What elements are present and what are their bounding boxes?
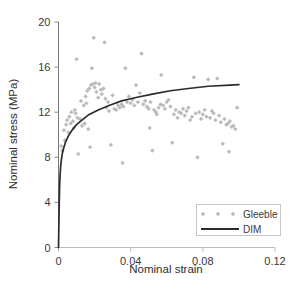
scatter-point bbox=[208, 116, 212, 120]
scatter-point bbox=[90, 66, 94, 70]
scatter-point bbox=[93, 85, 97, 89]
scatter-point bbox=[100, 92, 104, 96]
y-tick-label: 4 bbox=[44, 196, 50, 208]
scatter-point bbox=[197, 110, 201, 114]
scatter-point bbox=[185, 109, 189, 113]
scatter-point bbox=[221, 142, 225, 146]
scatter-point bbox=[127, 95, 131, 99]
y-tick-label: 12 bbox=[38, 106, 50, 118]
scatter-point bbox=[97, 82, 101, 86]
x-axis-ticks bbox=[59, 248, 276, 252]
scatter-point bbox=[187, 106, 191, 110]
y-tick-label: 20 bbox=[38, 16, 50, 28]
scatter-point bbox=[132, 104, 136, 108]
scatter-point bbox=[201, 113, 205, 117]
scatter-point bbox=[134, 83, 138, 87]
scatter-point bbox=[199, 117, 203, 121]
scatter-point bbox=[65, 118, 69, 122]
scatter-point bbox=[214, 118, 218, 122]
scatter-point bbox=[172, 113, 176, 117]
scatter-point bbox=[183, 114, 187, 118]
scatter-point bbox=[67, 115, 71, 119]
scatter-point bbox=[64, 123, 68, 127]
scatter-point bbox=[109, 143, 113, 147]
scatter-point bbox=[140, 52, 144, 56]
scatter-point bbox=[233, 127, 237, 131]
scatter-point bbox=[148, 126, 152, 130]
scatter-point bbox=[84, 95, 88, 99]
scatter-point bbox=[223, 117, 227, 121]
scatter-point bbox=[159, 73, 163, 77]
scatter-point bbox=[149, 100, 153, 104]
scatter-point bbox=[206, 78, 210, 82]
y-tick-label: 0 bbox=[44, 242, 50, 254]
scatter-point bbox=[59, 144, 63, 148]
scatter-point bbox=[227, 150, 231, 154]
scatter-point bbox=[219, 120, 223, 124]
scatter-point bbox=[141, 102, 145, 106]
scatter-point bbox=[136, 100, 140, 104]
x-tick-label: 0 bbox=[55, 255, 61, 267]
scatter-point bbox=[143, 99, 147, 103]
scatter-point bbox=[76, 152, 80, 156]
y-axis-title: Nominal stress (MPa) bbox=[7, 79, 19, 190]
scatter-chart: 048121620 00.040.080.12 Nominal strain N… bbox=[0, 0, 304, 303]
y-axis-tick-labels: 048121620 bbox=[38, 16, 50, 254]
scatter-point bbox=[194, 111, 198, 115]
scatter-point bbox=[123, 66, 127, 70]
scatter-point bbox=[203, 108, 207, 112]
scatter-point bbox=[215, 76, 219, 80]
x-axis-title: Nominal strain bbox=[129, 263, 203, 275]
scatter-point bbox=[157, 106, 161, 110]
scatter-point bbox=[103, 40, 107, 44]
scatter-point bbox=[88, 145, 92, 149]
scatter-point bbox=[96, 96, 100, 100]
y-tick-label: 8 bbox=[44, 151, 50, 163]
scatter-point bbox=[163, 107, 167, 111]
scatter-point bbox=[75, 57, 79, 61]
scatter-point bbox=[168, 105, 172, 109]
scatter-point bbox=[74, 111, 78, 115]
x-tick-label: 0.12 bbox=[264, 255, 285, 267]
legend: Gleeble DIM bbox=[197, 205, 281, 236]
scatter-point bbox=[176, 116, 180, 120]
scatter-point bbox=[138, 91, 142, 95]
legend-label-gleeble: Gleeble bbox=[243, 209, 278, 220]
scatter-point bbox=[192, 75, 196, 79]
scatter-point bbox=[106, 100, 110, 104]
y-tick-label: 16 bbox=[38, 61, 50, 73]
scatter-point bbox=[174, 108, 178, 112]
scatter-point bbox=[111, 93, 115, 97]
scatter-point bbox=[82, 104, 86, 108]
scatter-point bbox=[85, 101, 89, 105]
scatter-point bbox=[196, 155, 200, 159]
scatter-point bbox=[83, 122, 87, 126]
scatter-point bbox=[70, 110, 74, 114]
legend-label-dim: DIM bbox=[243, 224, 261, 235]
scatter-point bbox=[73, 108, 77, 112]
scatter-point bbox=[170, 141, 174, 145]
scatter-point bbox=[121, 161, 125, 165]
scatter-point bbox=[235, 106, 239, 110]
scatter-point bbox=[62, 128, 66, 132]
scatter-point bbox=[86, 127, 90, 131]
chart-figure: 048121620 00.040.080.12 Nominal strain N… bbox=[0, 0, 304, 303]
scatter-point bbox=[94, 90, 98, 94]
scatter-point bbox=[107, 109, 111, 113]
gleeble-scatter-points bbox=[59, 36, 239, 165]
scatter-point bbox=[79, 99, 83, 103]
y-axis-ticks bbox=[55, 22, 59, 248]
scatter-point bbox=[129, 101, 133, 105]
scatter-point bbox=[181, 107, 185, 111]
scatter-point bbox=[92, 36, 96, 40]
scatter-point bbox=[80, 124, 84, 128]
scatter-point bbox=[190, 115, 194, 119]
scatter-point bbox=[205, 115, 209, 119]
scatter-point bbox=[104, 97, 108, 101]
scatter-point bbox=[150, 149, 154, 153]
scatter-point bbox=[188, 118, 192, 122]
scatter-point bbox=[217, 114, 221, 118]
